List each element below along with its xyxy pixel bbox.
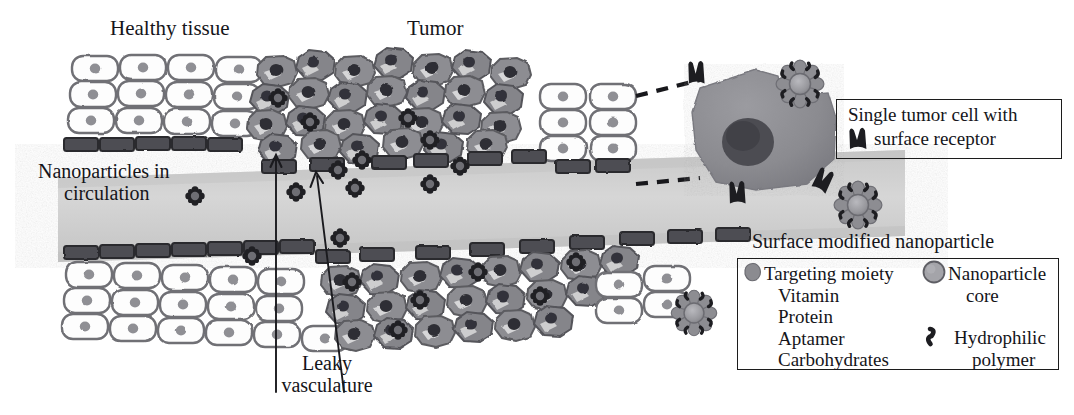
legend-nanoparticle-core-entry: Nanoparticle core [948,263,1046,306]
healthy-tissue-top-right [540,84,636,161]
legend-hydrophilic-polymer-line1: Hydrophilic [954,327,1046,348]
legend-left-column: Targeting moiety Vitamin Protein Aptamer… [764,263,894,371]
legend-item-aptamer: Aptamer [764,328,894,350]
receptor-icon [845,124,871,152]
label-leaky-line2: vasculature [252,374,402,396]
legend-hydrophilic-polymer-line2: polymer [954,349,1046,371]
bound-nanoparticle-top [776,60,824,108]
label-nanoparticles-in-circulation: Nanoparticles in circulation [38,160,170,205]
legend-nanoparticle-core-line2: core [948,285,1046,307]
bound-nanoparticle-bottom [834,181,882,229]
healthy-tissue-bottom [62,262,348,351]
legend-item-protein: Protein [764,306,894,328]
label-nanoparticles-line1: Nanoparticles in [38,160,170,182]
healthy-tissue-top [68,55,262,136]
legend-item-vitamin: Vitamin [764,285,894,307]
surface-receptor-top [688,61,704,84]
label-tumor: Tumor [407,16,463,41]
legend-item-carbohydrates: Carbohydrates [764,349,894,371]
legend-targeting-moiety-heading: Targeting moiety [764,263,894,284]
receptor-box-line2: surface receptor [874,128,996,150]
legend-hydrophilic-polymer-entry: Hydrophilic polymer [954,327,1046,370]
receptor-box-line1: Single tumor cell with [848,104,1017,126]
figure-canvas: Healthy tissue Tumor Nanoparticles in ci… [0,0,1074,415]
label-healthy-tissue: Healthy tissue [110,16,230,41]
label-surface-modified-nanoparticle: Surface modified nanoparticle [752,230,994,253]
tumor-mass-top [247,48,531,164]
label-leaky-line1: Leaky [302,352,352,374]
surface-modified-nanoparticle-illustration [671,290,716,335]
label-nanoparticles-line2: circulation [38,182,170,204]
label-leaky-vasculature: Leaky vasculature [252,352,402,397]
legend-nanoparticle-core-line1: Nanoparticle [948,263,1046,284]
